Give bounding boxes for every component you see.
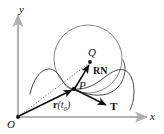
point-Q: [88, 60, 92, 64]
figure-canvas: [0, 0, 164, 134]
point-P: [72, 87, 76, 91]
vector-tangent: [76, 90, 106, 105]
axes-group: [18, 15, 147, 117]
figure-osculating-circle: y x O Q RN P T r(t0): [0, 0, 164, 134]
vector-label-RN: RN: [93, 66, 107, 76]
vector-label-T: T: [110, 101, 117, 112]
x-axis-label: x: [150, 111, 155, 122]
vector-label-arg-close: ): [67, 99, 70, 110]
point-label-P: P: [79, 80, 86, 91]
origin-label: O: [7, 119, 15, 130]
y-axis-label: y: [19, 4, 24, 15]
point-O: [16, 115, 20, 119]
vector-label-position: r(t0): [53, 100, 70, 113]
point-label-Q: Q: [88, 47, 96, 58]
